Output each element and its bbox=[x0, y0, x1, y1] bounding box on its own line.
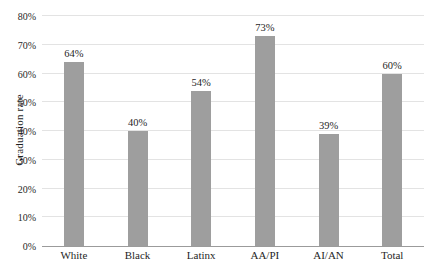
x-axis-label: Black bbox=[106, 249, 170, 261]
bar-slot-black: 40% bbox=[106, 16, 170, 246]
bar-value-label: 40% bbox=[106, 117, 170, 128]
bar-white bbox=[64, 62, 84, 246]
y-tick-label: 70% bbox=[18, 39, 36, 50]
y-tick-label: 80% bbox=[18, 11, 36, 22]
x-axis-label: AA/PI bbox=[233, 249, 297, 261]
bar-slot-total: 60% bbox=[360, 16, 424, 246]
x-axis-labels: WhiteBlackLatinxAA/PIAI/ANTotal bbox=[42, 249, 424, 261]
bar-aa-pi bbox=[255, 36, 275, 246]
x-axis-label: Latinx bbox=[169, 249, 233, 261]
bar-value-label: 73% bbox=[233, 22, 297, 33]
bar-value-label: 64% bbox=[42, 48, 106, 59]
y-tick-label: 60% bbox=[18, 68, 36, 79]
y-axis-tick-labels: 0%10%20%30%40%50%60%70%80% bbox=[0, 16, 36, 246]
bar-total bbox=[382, 74, 402, 247]
x-axis-label: White bbox=[42, 249, 106, 261]
bar-slot-aa-pi: 73% bbox=[233, 16, 297, 246]
y-tick-label: 30% bbox=[18, 154, 36, 165]
y-tick-label: 10% bbox=[18, 212, 36, 223]
x-axis-label: AI/AN bbox=[297, 249, 361, 261]
graduation-rate-bar-chart: Graduation rate 0%10%20%30%40%50%60%70%8… bbox=[0, 0, 432, 277]
bar-value-label: 39% bbox=[297, 120, 361, 131]
bar-latinx bbox=[191, 91, 211, 246]
x-axis-label: Total bbox=[360, 249, 424, 261]
bar-ai-an bbox=[319, 134, 339, 246]
y-tick-label: 0% bbox=[23, 241, 36, 252]
plot-area: 64%40%54%73%39%60% bbox=[42, 16, 424, 247]
bar-value-label: 54% bbox=[169, 77, 233, 88]
y-tick-label: 40% bbox=[18, 126, 36, 137]
bar-slot-latinx: 54% bbox=[169, 16, 233, 246]
y-tick-label: 50% bbox=[18, 97, 36, 108]
bar-slot-ai-an: 39% bbox=[297, 16, 361, 246]
bar-slot-white: 64% bbox=[42, 16, 106, 246]
bar-value-label: 60% bbox=[360, 60, 424, 71]
y-tick-label: 20% bbox=[18, 183, 36, 194]
bar-black bbox=[128, 131, 148, 246]
bars-container: 64%40%54%73%39%60% bbox=[42, 16, 424, 246]
